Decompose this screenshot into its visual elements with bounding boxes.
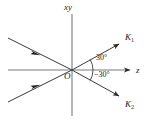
origin-label: O	[64, 72, 71, 81]
horizontal-axis-label: z	[136, 66, 140, 75]
figure-container: xy z O K1 K2 30° −30°	[0, 0, 148, 124]
ray-k2-label-subscript: 2	[131, 104, 134, 110]
ray-k1-label-subscript: 1	[131, 37, 134, 43]
incident-ray-upper	[8, 38, 72, 70]
angle-arc-positive	[90, 60, 93, 71]
vertical-axis-label: xy	[64, 3, 72, 12]
ray-k1-label: K1	[125, 33, 134, 42]
angle-arc-negative	[90, 70, 93, 81]
ray-k2-label: K2	[125, 100, 134, 109]
incident-ray-lower	[8, 70, 72, 102]
angle-label-negative: −30°	[94, 71, 110, 79]
angle-label-positive: 30°	[96, 54, 107, 62]
